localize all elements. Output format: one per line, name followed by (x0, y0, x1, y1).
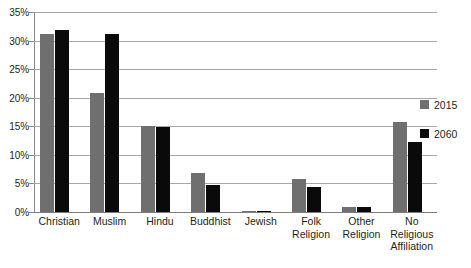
y-axis-tick-mark (29, 69, 34, 70)
bar-2015 (342, 207, 356, 212)
x-axis-category-label: Christian (34, 215, 84, 228)
legend-swatch-icon (420, 100, 429, 109)
x-axis-label-group: ChristianMuslimHinduBuddhistJewishFolk R… (34, 215, 437, 268)
bar-2060 (257, 211, 271, 212)
bar-2015 (191, 173, 205, 212)
y-axis-tick-mark (29, 126, 34, 127)
y-axis-tick-mark (29, 98, 34, 99)
legend-item-2060: 2060 (420, 125, 471, 142)
x-axis-category-label: Hindu (135, 215, 185, 228)
bar-2015 (90, 93, 104, 212)
y-axis-tick-mark (29, 183, 34, 184)
x-axis-category-label: Other Religion (336, 215, 386, 240)
bar-chart: 0%5%10%15%20%25%30%35% ChristianMuslimHi… (0, 0, 471, 268)
legend-label: 2015 (434, 99, 457, 111)
chart-legend: 20152060 (420, 96, 471, 154)
y-axis-tick-mark (29, 41, 34, 42)
bar-2015 (40, 34, 54, 212)
x-axis-category-label: No Religious Affiliation (387, 215, 437, 253)
x-axis-category-label: Buddhist (185, 215, 235, 228)
gridline (34, 212, 437, 213)
bar-2060 (206, 185, 220, 212)
bar-group (286, 12, 336, 212)
y-axis-tick-mark (29, 212, 34, 213)
bar-group (185, 12, 235, 212)
bar-2015 (242, 211, 256, 212)
bar-group (236, 12, 286, 212)
bar-group (135, 12, 185, 212)
bar-group (34, 12, 84, 212)
bar-2060 (55, 30, 69, 212)
bar-2015 (393, 122, 407, 212)
bar-2060 (156, 127, 170, 212)
bar-2060 (357, 207, 371, 212)
page-edge-artifact (0, 262, 471, 268)
plot-area (34, 12, 437, 212)
bar-group (84, 12, 134, 212)
legend-item-2015: 2015 (420, 96, 471, 113)
bar-group (336, 12, 386, 212)
bar-2060 (105, 34, 119, 212)
x-axis-category-label: Jewish (236, 215, 286, 228)
legend-label: 2060 (434, 128, 457, 140)
y-axis-tick-mark (29, 155, 34, 156)
legend-swatch-icon (420, 129, 429, 138)
x-axis-category-label: Muslim (84, 215, 134, 228)
y-axis-tick-mark (29, 12, 34, 13)
bar-2060 (307, 187, 321, 212)
bar-2015 (141, 126, 155, 212)
bar-2015 (292, 179, 306, 212)
x-axis-category-label: Folk Religion (286, 215, 336, 240)
